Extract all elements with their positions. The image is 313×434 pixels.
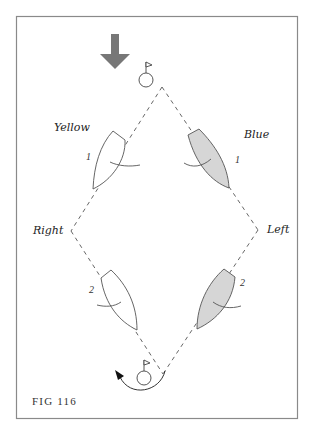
figure-caption: FIG 116 [32,395,77,407]
label-blue: Blue [243,128,270,141]
boat-blue-2-number: 2 [240,277,245,288]
boat-blue-1-number: 1 [235,154,240,165]
label-yellow: Yellow [54,121,90,134]
boat-yellow-2-number: 2 [89,284,94,295]
label-left: Left [266,223,290,236]
label-right: Right [32,224,64,237]
boat-yellow-1-number: 1 [86,151,91,162]
figure-frame [17,17,298,419]
sailing-diagram: Yellow Blue Right Left 1 1 2 2 FIG 116 [0,0,313,434]
